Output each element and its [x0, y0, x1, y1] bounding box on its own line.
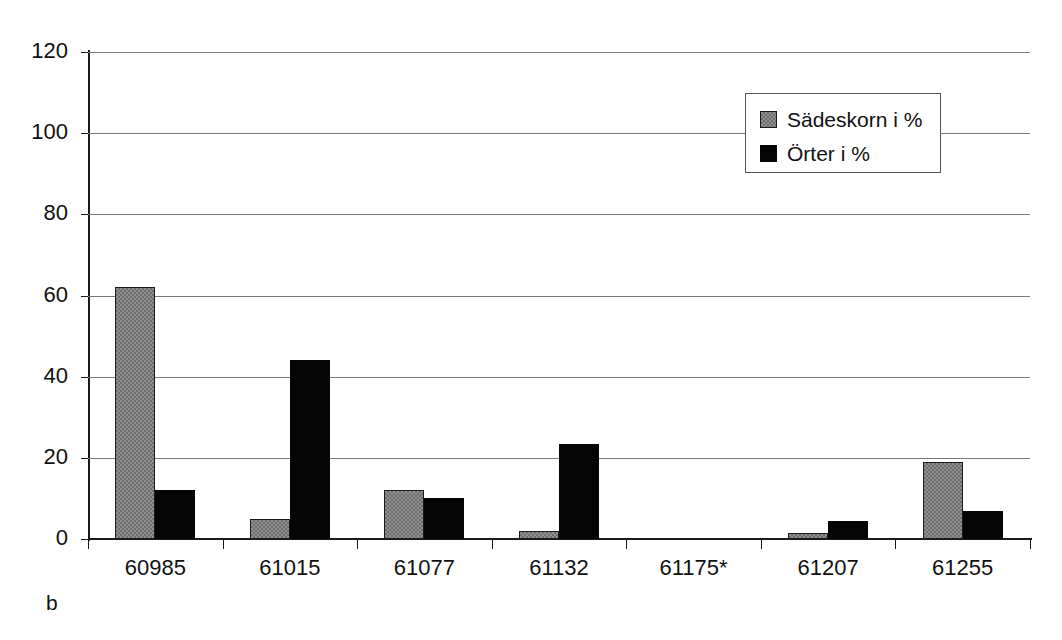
- x-axis-label-61255: 61255: [895, 556, 1030, 580]
- x-axis-label-61175star: 61175*: [626, 556, 761, 580]
- y-tick-mark: [81, 458, 88, 459]
- x-axis-tick-mark: [223, 540, 224, 549]
- chart-legend: Sädeskorn i % Örter i %: [745, 93, 941, 173]
- bar-sadeskorn-61015: [250, 519, 290, 539]
- legend-item-sadeskorn: Sädeskorn i %: [760, 104, 940, 134]
- y-tick-mark: [81, 377, 88, 378]
- legend-label-orter: Örter i %: [787, 143, 870, 164]
- legend-swatch-icon-sadeskorn: [760, 111, 777, 128]
- legend-item-orter: Örter i %: [760, 138, 940, 168]
- legend-label-sadeskorn: Sädeskorn i %: [787, 109, 922, 130]
- y-axis-tick-label: 0: [2, 527, 68, 549]
- y-axis-tick-label: 120: [2, 40, 68, 62]
- y-axis-tick-label: 100: [2, 121, 68, 143]
- legend-swatch-icon-orter: [760, 145, 777, 162]
- bar-sadeskorn-61207: [788, 533, 828, 539]
- x-axis-tick-mark: [357, 540, 358, 549]
- gridline-y-40: [88, 377, 1030, 378]
- y-tick-mark: [81, 539, 88, 540]
- bar-sadeskorn-61132: [519, 531, 559, 539]
- x-axis-tick-mark: [1030, 540, 1031, 549]
- bar-chart-figure: 020406080100120 609856101561077611326117…: [0, 0, 1062, 640]
- gridline-y-120: [88, 52, 1030, 53]
- y-tick-mark: [81, 133, 88, 134]
- x-axis-tick-mark: [492, 540, 493, 549]
- x-axis-label-61015: 61015: [223, 556, 358, 580]
- x-axis-tick-mark: [626, 540, 627, 549]
- y-axis-tick-label: 40: [2, 365, 68, 387]
- x-axis-tick-mark: [761, 540, 762, 549]
- x-axis-tick-mark-origin: [88, 540, 89, 549]
- x-axis-tick-mark: [895, 540, 896, 549]
- y-axis-tick-label: 60: [2, 284, 68, 306]
- x-axis-label-61132: 61132: [492, 556, 627, 580]
- y-tick-mark: [81, 52, 88, 53]
- x-axis-label-61077: 61077: [357, 556, 492, 580]
- y-tick-mark: [81, 296, 88, 297]
- gridline-y-80: [88, 214, 1030, 215]
- bar-orter-61255: [963, 511, 1003, 539]
- gridline-y-60: [88, 296, 1030, 297]
- bar-sadeskorn-60985: [115, 287, 155, 539]
- bar-orter-60985: [155, 490, 195, 539]
- x-axis-label-61207: 61207: [761, 556, 896, 580]
- y-axis-tick-label: 20: [2, 446, 68, 468]
- y-axis-tick-label: 80: [2, 202, 68, 224]
- bar-orter-61015: [290, 360, 330, 539]
- bar-orter-61207: [828, 521, 868, 539]
- bar-orter-61132: [559, 444, 599, 539]
- x-axis-label-60985: 60985: [88, 556, 223, 580]
- bar-sadeskorn-61077: [384, 490, 424, 539]
- bar-sadeskorn-61255: [923, 462, 963, 539]
- bar-orter-61077: [424, 498, 464, 539]
- panel-label: b: [46, 592, 58, 613]
- y-tick-mark: [81, 214, 88, 215]
